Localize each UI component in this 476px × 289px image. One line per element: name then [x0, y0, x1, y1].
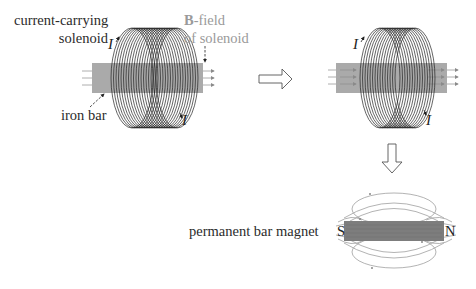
bar-magnet	[344, 221, 444, 241]
label-iron-bar: iron bar	[61, 107, 107, 123]
field-arrows-right	[203, 71, 214, 85]
label-solenoid: solenoid	[14, 30, 108, 46]
label-of-solenoid: of solenoid	[184, 30, 249, 46]
current-label-top-2: I	[353, 36, 358, 52]
diagram-canvas: current-carrying solenoid I B-field of s…	[0, 0, 476, 289]
stage3-bar-magnet	[336, 193, 456, 269]
label-permanent-bar-magnet: permanent bar magnet	[189, 223, 319, 239]
iron-bar-leader	[90, 94, 104, 107]
pole-north: N	[445, 223, 455, 239]
label-bfield: B-field	[184, 12, 225, 28]
stage2-solenoid-assembly	[328, 28, 458, 128]
iron-bar	[92, 63, 203, 93]
field-arrows-right-2	[447, 70, 458, 84]
pole-south: S	[337, 223, 345, 239]
current-label-top: I	[108, 36, 113, 52]
bfield-symbol: B	[184, 12, 194, 28]
process-arrow-down-icon	[382, 144, 402, 173]
current-arrow-top-2	[361, 37, 364, 42]
process-arrow-right-icon	[259, 69, 292, 89]
current-label-bottom: I	[182, 112, 187, 128]
current-label-bottom-2: I	[426, 112, 431, 128]
bfield-suffix: -field	[194, 12, 225, 28]
label-current-carrying: current-carrying	[14, 12, 108, 28]
